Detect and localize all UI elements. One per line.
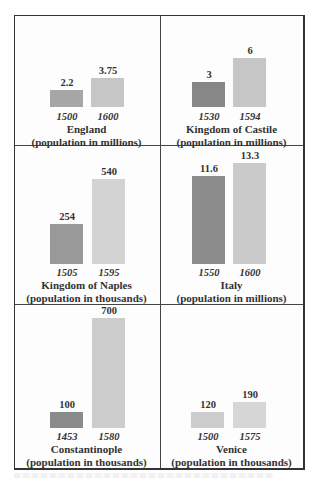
bar-england-1600 xyxy=(91,78,124,107)
bar-naples-1505 xyxy=(50,224,83,264)
panel-title-units: (population in thousands) xyxy=(159,456,304,469)
value-label: 700 xyxy=(84,305,134,316)
panel-title: Italy(population in millions) xyxy=(159,279,304,305)
bar-italy-1600 xyxy=(233,163,266,264)
value-label: 11.6 xyxy=(184,163,234,174)
panel-title: Kingdom of Naples(population in thousand… xyxy=(14,279,159,305)
value-label: 3 xyxy=(184,69,234,80)
panel-title-name: Venice xyxy=(159,443,304,456)
year-label: 1595 xyxy=(84,267,134,278)
panel-title-name: England xyxy=(14,123,159,136)
value-label: 2.2 xyxy=(42,77,92,88)
panel-title-units: (population in thousands) xyxy=(14,292,159,305)
value-label: 120 xyxy=(183,399,233,410)
bar-italy-1550 xyxy=(192,176,225,264)
panel-title: England(population in millions) xyxy=(14,123,159,149)
bar-england-1500 xyxy=(50,90,83,107)
value-label: 3.75 xyxy=(83,65,133,76)
value-label: 100 xyxy=(42,399,92,410)
year-label: 1580 xyxy=(84,431,134,442)
panel-title: Venice(population in thousands) xyxy=(159,443,304,469)
bar-castile-1530 xyxy=(192,82,225,107)
panel-title-name: Kingdom of Naples xyxy=(14,279,159,292)
year-label: 1594 xyxy=(225,111,275,122)
bar-constantinople-1453 xyxy=(50,412,83,428)
panel-title-units: (population in millions) xyxy=(159,136,304,149)
value-label: 254 xyxy=(42,211,92,222)
bar-constantinople-1580 xyxy=(92,318,125,428)
bar-castile-1594 xyxy=(233,58,266,107)
panel-title-units: (population in millions) xyxy=(14,136,159,149)
vertical-divider xyxy=(160,16,161,468)
bar-venice-1500 xyxy=(191,412,224,428)
bar-naples-1595 xyxy=(92,179,125,264)
value-label: 13.3 xyxy=(225,150,275,161)
panel-title-units: (population in thousands) xyxy=(14,456,159,469)
panel-title-units: (population in millions) xyxy=(159,292,304,305)
panel-title: Constantinople(population in thousands) xyxy=(14,443,159,469)
panel-title-name: Constantinople xyxy=(14,443,159,456)
panel-title-name: Kingdom of Castile xyxy=(159,123,304,136)
year-label: 1600 xyxy=(225,267,275,278)
year-label: 1575 xyxy=(225,431,275,442)
year-label: 1600 xyxy=(83,111,133,122)
bleed-through-text xyxy=(14,473,274,478)
value-label: 540 xyxy=(84,166,134,177)
value-label: 190 xyxy=(225,389,275,400)
panel-title-name: Italy xyxy=(159,279,304,292)
bar-venice-1575 xyxy=(233,402,266,428)
panel-title: Kingdom of Castile(population in million… xyxy=(159,123,304,149)
value-label: 6 xyxy=(225,45,275,56)
